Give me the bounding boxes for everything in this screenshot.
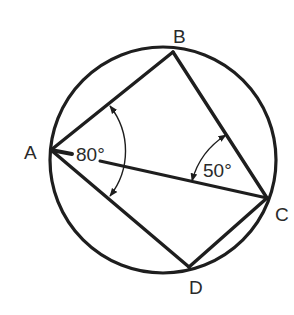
side-cd (189, 198, 267, 267)
angle-arc-a (110, 106, 126, 196)
side-da (51, 150, 189, 267)
point-label-a: A (24, 142, 37, 163)
cyclic-quadrilateral-diagram: A B C D 80° 50° (0, 0, 294, 315)
point-label-d: D (189, 277, 203, 298)
point-label-c: C (275, 204, 289, 225)
point-label-b: B (173, 26, 186, 47)
angle-label-c: 50° (203, 160, 232, 181)
side-ab (51, 52, 173, 150)
angle-label-a: 80° (76, 144, 105, 165)
